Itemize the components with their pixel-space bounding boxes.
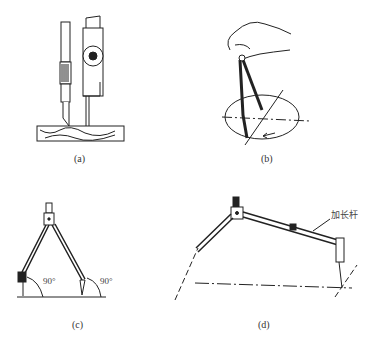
caption-b: (b) bbox=[261, 153, 273, 164]
caption-d: (d) bbox=[258, 319, 270, 330]
figure-a-drawing bbox=[0, 0, 378, 342]
figure-b bbox=[222, 22, 310, 145]
caption-a: (a) bbox=[74, 153, 85, 164]
figure-d bbox=[175, 197, 357, 300]
angle-label-left: 90° bbox=[43, 276, 56, 286]
figure-c bbox=[17, 203, 106, 297]
extension-rod-callout: 加长杆 bbox=[331, 208, 358, 221]
angle-label-right: 90° bbox=[100, 276, 113, 286]
figure-a bbox=[37, 16, 124, 141]
caption-c: (c) bbox=[72, 319, 83, 330]
